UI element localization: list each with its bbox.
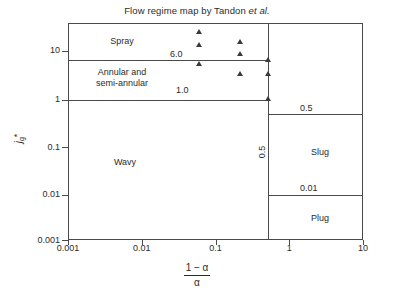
region-label-annular-line1: Annular and [96,67,148,78]
boundary-label-1: 1.0 [176,85,189,95]
data-point-marker [237,51,243,56]
data-point-marker [265,71,271,76]
y-tick-label-0-1: 0.1 [47,142,60,152]
y-axis-title-star: * [12,134,22,138]
y-tick-label-10: 10 [50,45,60,55]
boundary-label-hundredth: 0.01 [300,183,318,193]
boundary-label-6: 6.0 [170,49,183,59]
y-tick-10 [62,51,68,52]
y-tick-label-1: 1 [55,94,60,104]
plot-frame [68,23,363,240]
fraction-bar [184,275,211,276]
y-tick-label-0-01: 0.01 [42,189,60,199]
boundary-line-half-vertical [268,23,269,240]
x-axis-title-numerator: 1 − α [184,262,211,274]
region-label-annular: Annular and semi-annular [96,67,148,89]
x-axis-title-fraction: 1 − α α [184,262,211,288]
region-label-slug: Slug [311,147,329,158]
x-tick-label-0-001: 0.001 [57,243,80,253]
data-point-marker [196,42,202,47]
y-tick-0-01 [62,195,68,196]
x-tick-label-1: 1 [287,243,292,253]
x-axis-title: 1 − α α [0,262,394,288]
data-point-marker [237,39,243,44]
data-point-marker [196,61,202,66]
data-point-marker [237,71,243,76]
boundary-line-hundredth [268,195,363,196]
chart-title: Flow regime map by Tandon et al. [0,5,394,16]
chart-title-italic: et al. [249,5,270,16]
x-tick-label-0-01: 0.01 [133,243,151,253]
region-label-plug: Plug [311,213,329,224]
region-label-spray: Spray [110,36,134,47]
boundary-line-1 [68,100,268,101]
region-label-wavy: Wavy [114,157,136,168]
boundary-line-half-right [268,114,363,115]
boundary-line-6 [68,60,268,61]
y-axis-title-subscript: g [18,137,25,141]
y-axis-title-base: j [13,141,24,143]
y-axis-title: jg* [12,134,25,144]
data-point-marker [265,96,271,101]
data-point-marker [196,29,202,34]
chart-title-text: Flow regime map by Tandon [124,5,248,16]
boundary-label-half-right: 0.5 [300,103,313,113]
y-tick-0-1 [62,147,68,148]
y-tick-1 [62,100,68,101]
x-tick-label-0-1: 0.1 [209,243,222,253]
x-axis-title-denominator: α [184,277,211,289]
data-point-marker [265,57,271,62]
x-tick-label-10: 10 [358,243,368,253]
boundary-label-half-vertical: 0.5 [257,146,267,159]
flow-regime-map-figure: Flow regime map by Tandon et al. 10 1 0.… [0,0,394,301]
region-label-annular-line2: semi-annular [96,78,148,89]
